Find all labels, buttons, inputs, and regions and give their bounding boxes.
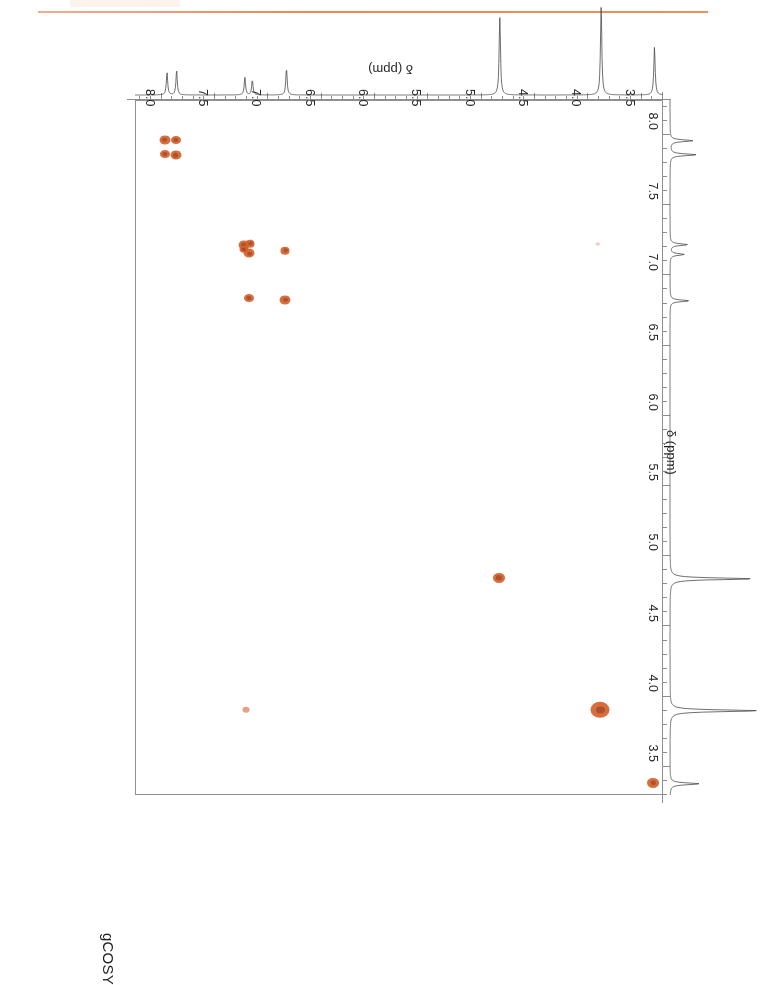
contour-peak-core bbox=[496, 575, 502, 580]
x-projection-trace bbox=[135, 0, 663, 97]
cross-peak bbox=[596, 242, 600, 245]
y-axis-tick-label: 5.5 bbox=[646, 464, 660, 481]
cross-peak bbox=[243, 707, 250, 713]
plot-frame bbox=[135, 100, 663, 795]
contour-peak-core bbox=[283, 249, 287, 253]
diagonal-peak bbox=[170, 151, 181, 160]
diagonal-peak bbox=[280, 295, 291, 304]
y-projection-trace bbox=[665, 100, 761, 795]
diagonal-peak bbox=[493, 573, 505, 583]
contour-peak-core bbox=[247, 296, 252, 300]
y-axis-tick-label: 7.5 bbox=[646, 183, 660, 200]
y-axis-tick-label: 5.0 bbox=[646, 534, 660, 551]
y-axis-tick-label: 4.5 bbox=[646, 604, 660, 621]
diagonal-peak bbox=[159, 135, 170, 144]
contour-peak-core bbox=[248, 242, 252, 246]
contour-peak-core bbox=[242, 247, 246, 251]
cross-peak bbox=[246, 240, 255, 247]
y-axis-tick-label: 4.0 bbox=[646, 674, 660, 691]
y-axis-tick-label: 6.0 bbox=[646, 394, 660, 411]
contour-peak-core bbox=[283, 298, 288, 302]
diagonal-peak bbox=[648, 778, 660, 788]
contour-peak-core bbox=[163, 152, 168, 156]
y-axis-tick-label: 8.0 bbox=[646, 113, 660, 130]
contour-plot-area bbox=[136, 101, 662, 794]
cross-peak bbox=[281, 247, 290, 254]
page-title: gCOSY bbox=[100, 933, 117, 985]
contour-peak-core bbox=[596, 706, 605, 713]
contour-peak-core bbox=[651, 780, 657, 785]
y-axis-tick-label: 7.0 bbox=[646, 253, 660, 270]
contour-peak-core bbox=[173, 153, 178, 157]
cross-peak bbox=[244, 294, 254, 302]
cross-peak bbox=[171, 136, 181, 144]
y-axis-tick-label: 6.5 bbox=[646, 323, 660, 340]
contour-peak-core bbox=[162, 138, 167, 142]
contour-peak-core bbox=[173, 138, 178, 142]
contour-peak-core bbox=[247, 251, 252, 255]
cross-peak bbox=[160, 150, 170, 158]
y-axis-tick-label: 3.5 bbox=[646, 745, 660, 762]
diagonal-peak bbox=[591, 702, 610, 718]
